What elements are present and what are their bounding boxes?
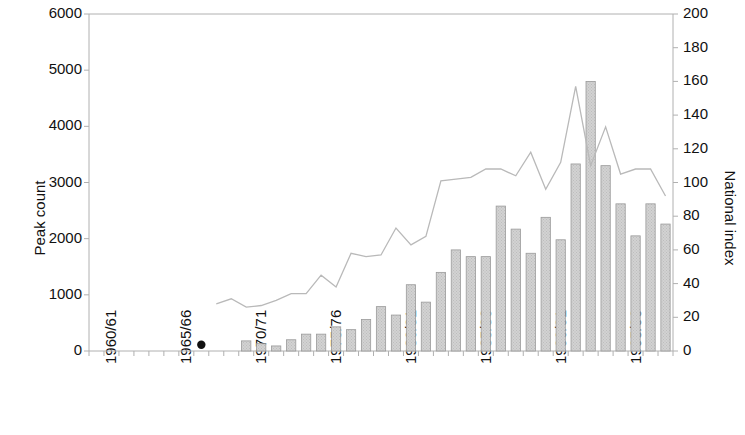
bar [541,217,550,351]
bar [586,81,595,351]
bar [346,330,355,351]
bar [481,257,490,351]
bar [301,334,310,351]
scatter-series [197,341,205,349]
bar [451,250,460,351]
bar [466,257,475,351]
bar [361,320,370,351]
bar [496,206,505,351]
bar [436,272,445,351]
bar [511,229,520,351]
bar [526,253,535,351]
data-point-marker [197,341,205,349]
chart-figure: Peak count National index 01000200030004… [0,0,745,435]
bar [661,224,670,351]
bar [406,285,415,351]
bar [616,204,625,351]
bar [421,302,430,351]
bar [331,327,340,351]
bar [257,344,266,351]
bar [272,346,281,351]
bar-series [242,81,671,351]
bar [376,307,385,351]
bar [316,334,325,351]
bar [646,204,655,351]
chart-plot-area [0,0,745,435]
bar [287,340,296,351]
bar [242,341,251,351]
bar [631,236,640,351]
bar [571,164,580,351]
bar [601,166,610,351]
bar [556,240,565,351]
bar [391,315,400,351]
